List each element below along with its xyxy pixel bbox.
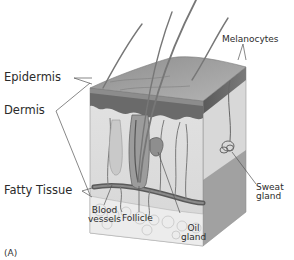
label-oil-gland: Oil gland bbox=[181, 224, 206, 243]
label-blood-vessels-line2: vessels bbox=[88, 215, 121, 224]
skin-diagram: Epidermis Dermis Fatty Tissue Melanocyte… bbox=[0, 0, 294, 260]
panel-label: (A) bbox=[4, 249, 17, 258]
label-melanocytes: Melanocytes bbox=[222, 35, 279, 44]
label-follicle: Follicle bbox=[122, 214, 153, 223]
label-sweat-gland-line2: gland bbox=[256, 192, 284, 201]
label-oil-gland-line2: gland bbox=[181, 233, 206, 242]
label-sweat-gland: Sweat gland bbox=[256, 183, 284, 202]
label-fatty-tissue: Fatty Tissue bbox=[4, 184, 72, 196]
label-dermis: Dermis bbox=[4, 104, 45, 116]
label-epidermis: Epidermis bbox=[4, 71, 61, 83]
label-blood-vessels: Blood vessels bbox=[88, 206, 121, 225]
